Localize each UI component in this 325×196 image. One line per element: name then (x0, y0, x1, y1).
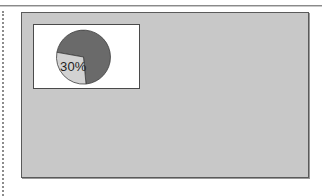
chart-frame: 30% (21, 12, 309, 178)
pie-slice-label: 30% (60, 59, 87, 74)
top-divider (0, 5, 322, 7)
left-dotted-border (2, 11, 4, 196)
chart-plot-area: 30% (33, 24, 140, 89)
pie-chart (34, 25, 139, 88)
